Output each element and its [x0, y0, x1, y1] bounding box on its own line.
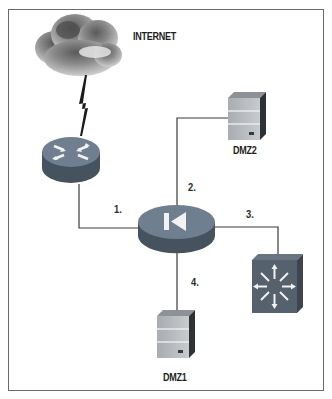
link-4-label: 4.: [191, 276, 199, 288]
dmz1-server-icon: [157, 310, 195, 358]
dmz1-label: DMZ1: [163, 371, 187, 383]
internet-label: INTERNET: [133, 30, 176, 42]
link-firewall-switch: [214, 227, 278, 256]
router-icon: [42, 137, 100, 183]
layer3-switch-icon: [252, 254, 303, 313]
dmz2-label: DMZ2: [233, 144, 257, 156]
lightning-link-icon: [79, 75, 88, 136]
link-3-label: 3.: [246, 208, 254, 220]
dmz2-server-icon: [228, 92, 266, 140]
link-2-label: 2.: [188, 181, 196, 193]
link-firewall-dmz2: [177, 118, 229, 206]
link-1-label: 1.: [114, 203, 122, 215]
network-diagram-canvas: [0, 0, 332, 399]
link-router-firewall: [79, 184, 140, 228]
firewall-router-icon: [138, 205, 215, 253]
internet-cloud-icon: [35, 14, 122, 76]
